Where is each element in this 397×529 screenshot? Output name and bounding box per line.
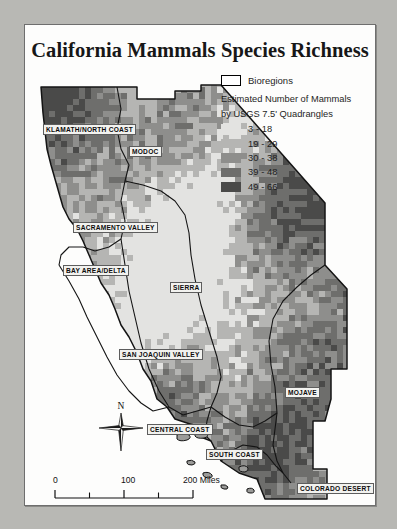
legend-class-swatch	[221, 168, 241, 178]
bioregion-label: COLORADO DESERT	[297, 483, 374, 494]
legend-class-row: 19 - 29	[221, 138, 371, 150]
bioregion-label: KLAMATH/NORTH COAST	[43, 124, 136, 135]
legend-bioregions-label: Bioregions	[248, 75, 293, 86]
map-poster: California Mammals Species Richness	[24, 24, 376, 506]
legend-class-label: 39 - 48	[248, 167, 278, 177]
bioregion-label: BAY AREA/DELTA	[63, 265, 129, 276]
legend-class-row: 30 - 38	[221, 152, 371, 164]
scale-bar-ruler	[53, 487, 223, 501]
bioregion-label: SACRAMENTO VALLEY	[73, 222, 158, 233]
page-title: California Mammals Species Richness	[25, 39, 375, 62]
north-arrow: N	[96, 401, 146, 457]
legend-bioregions-entry: Bioregions	[221, 75, 371, 86]
legend-class-swatch	[221, 139, 241, 149]
bioregions-swatch-icon	[221, 75, 241, 86]
scale-bar: 0100200 Miles	[53, 475, 223, 503]
legend-class-swatch	[221, 153, 241, 163]
bioregion-label: SAN JOAQUIN VALLEY	[119, 349, 203, 360]
legend-subtitle-line1: Estimated Number of Mammals	[221, 93, 371, 106]
bioregion-label: MODOC	[129, 146, 162, 157]
legend-class-row: 39 - 48	[221, 166, 371, 178]
legend-class-row: 3 - 18	[221, 123, 371, 135]
legend-class-label: 49 - 66	[248, 182, 278, 192]
legend-class-swatch	[221, 124, 241, 134]
legend-class-label: 3 - 18	[248, 124, 272, 134]
bioregion-label: SOUTH COAST	[206, 449, 263, 460]
legend-class-rows: 3 - 1819 - 2930 - 3839 - 4849 - 66	[221, 123, 371, 193]
scale-tick-label: 0	[53, 475, 58, 485]
legend-subtitle-line2: by USGS 7.5' Quadrangles	[221, 108, 371, 121]
bioregion-label: MOJAVE	[285, 387, 320, 398]
legend-class-row: 49 - 66	[221, 181, 371, 193]
scale-tick-label: 200 Miles	[183, 475, 220, 485]
map-legend: Bioregions Estimated Number of Mammals b…	[221, 75, 371, 195]
bioregion-label: CENTRAL COAST	[147, 424, 213, 435]
scale-tick-label: 100	[121, 475, 135, 485]
legend-class-label: 30 - 38	[248, 153, 278, 163]
bioregion-label: SIERRA	[170, 282, 202, 293]
legend-class-label: 19 - 29	[248, 139, 278, 149]
north-arrow-label: N	[96, 401, 146, 411]
legend-class-swatch	[221, 182, 241, 192]
